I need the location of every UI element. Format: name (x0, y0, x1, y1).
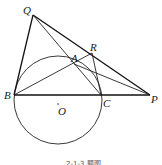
segment-qp (33, 15, 150, 95)
label-o: O (58, 105, 66, 117)
segment-qb (14, 15, 33, 95)
label-q: Q (23, 4, 31, 16)
label-c: C (103, 97, 111, 109)
geometry-diagram: Q R A B C P O 2-1-3 题图 (0, 0, 162, 165)
label-b: B (4, 89, 11, 101)
segment-br (14, 53, 92, 95)
figure-caption: 2-1-3 题图 (66, 160, 101, 165)
label-a: A (70, 52, 78, 64)
label-p: P (150, 93, 158, 105)
circle-o (14, 56, 102, 144)
label-r: R (89, 41, 97, 53)
